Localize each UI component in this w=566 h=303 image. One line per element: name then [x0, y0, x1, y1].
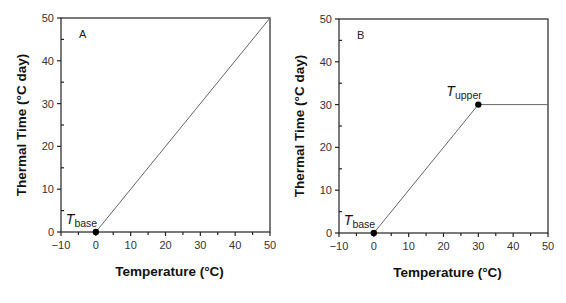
y-tick-label: 30 — [42, 98, 54, 110]
x-tick-label: 0 — [93, 239, 99, 251]
figure: −100102030405001020304050ATbaseTemperatu… — [0, 0, 566, 303]
x-tick-label: 40 — [229, 239, 241, 251]
annotation-t-upper: Tupper — [446, 83, 482, 101]
marker-upper — [475, 101, 481, 107]
x-tick-label: 20 — [159, 239, 171, 251]
x-tick-label: 30 — [472, 240, 484, 252]
annotation-t-base: Tbase — [66, 211, 97, 229]
x-tick-label: 10 — [125, 239, 137, 251]
y-tick-label: 0 — [326, 227, 332, 239]
y-tick-label: 10 — [42, 183, 54, 195]
x-tick-label: −10 — [330, 240, 349, 252]
series-line — [374, 105, 548, 233]
y-tick-label: 40 — [320, 56, 332, 68]
series-line — [96, 18, 270, 232]
panel-label: B — [357, 29, 364, 41]
y-tick-label: 50 — [42, 12, 54, 24]
y-axis-title: Thermal Time (°C day) — [14, 54, 29, 196]
y-tick-label: 20 — [42, 140, 54, 152]
x-tick-label: 50 — [542, 240, 554, 252]
x-tick-label: 10 — [403, 240, 415, 252]
y-tick-label: 10 — [320, 184, 332, 196]
y-tick-label: 40 — [42, 55, 54, 67]
x-tick-label: 40 — [507, 240, 519, 252]
x-tick-label: −10 — [52, 239, 71, 251]
y-tick-label: 50 — [320, 13, 332, 25]
panel-label: A — [79, 28, 87, 40]
x-tick-label: 50 — [264, 239, 276, 251]
y-tick-label: 30 — [320, 99, 332, 111]
panel-a: −100102030405001020304050ATbaseTemperatu… — [14, 12, 276, 279]
panel-b: −100102030405001020304050BTbaseTupperTem… — [292, 13, 554, 280]
plot-frame — [339, 19, 548, 233]
y-tick-label: 0 — [48, 226, 54, 238]
y-axis-title: Thermal Time (°C day) — [292, 55, 307, 197]
x-axis-title: Temperature (°C) — [115, 264, 224, 279]
marker-base — [93, 229, 99, 235]
annotation-t-base: Tbase — [344, 212, 375, 230]
x-tick-label: 0 — [371, 240, 377, 252]
x-tick-label: 30 — [194, 239, 206, 251]
plot-frame — [61, 18, 270, 232]
y-tick-label: 20 — [320, 141, 332, 153]
marker-base — [371, 230, 377, 236]
x-tick-label: 20 — [437, 240, 449, 252]
x-axis-title: Temperature (°C) — [393, 265, 502, 280]
